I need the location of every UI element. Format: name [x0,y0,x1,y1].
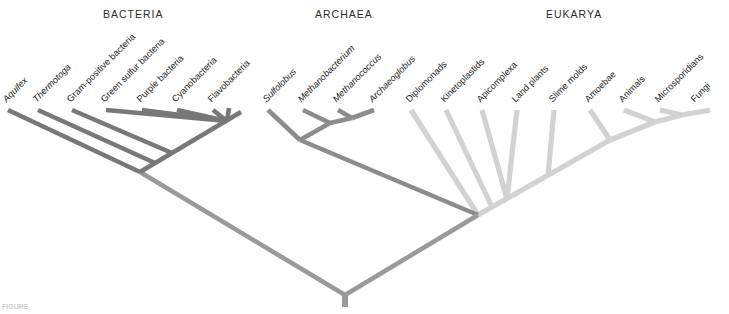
tree-branch-arch-n2 [300,123,330,140]
eukarya-branch-group [411,110,710,215]
tree-branch-arch-n3 [303,110,330,123]
tree-branch-arch-n5 [338,110,352,118]
tree-branch-euk-c2 [610,122,655,140]
tree-branch-euk-c5 [660,110,682,115]
tree-branch-bact-hub-stem [227,108,229,121]
tree-branch-euk-b1 [548,110,554,176]
tree-of-life-figure: BACTERIAARCHAEAEUKARYA AquifexThermotoga… [0,0,729,314]
tree-branch-root-to-bact [140,172,345,295]
tree-branch-arch-n6 [352,110,374,118]
tree-branch-euk-c1 [590,110,610,140]
tree-branch-euk-c3 [624,110,655,122]
tree-branch-root-to-ae [345,215,478,295]
tree-branch-euk-c6 [682,110,710,115]
domain-header-eukarya: EUKARYA [546,8,602,20]
domain-header-archaea: ARCHAEA [315,8,373,20]
tree-branch-bact-n1 [8,110,140,172]
tree-branch-euk-a4 [507,110,517,199]
tree-branch-euk-root [478,140,610,215]
tree-branch-arch-n1 [268,110,300,140]
phylogenetic-tree-canvas [0,0,729,314]
figure-caption: FIGURE [2,303,28,314]
domain-header-bacteria: BACTERIA [103,8,164,20]
bacteria-branch-group [8,108,241,172]
tree-branch-euk-a3 [482,110,507,199]
